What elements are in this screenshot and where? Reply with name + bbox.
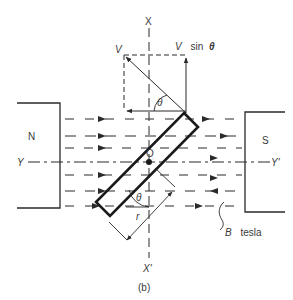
field-strength-label: B tesla — [219, 202, 262, 238]
v-sin-theta-sin: sin — [190, 41, 203, 52]
coil-in-magnetic-field-diagram: N S Y Y' X X' — [0, 0, 293, 300]
velocity-diagram: θ V V sin θ — [115, 41, 215, 113]
v-sin-theta-label: V sin θ — [175, 41, 215, 52]
figure-caption: (b) — [138, 282, 150, 293]
south-label: S — [262, 135, 269, 146]
coil-center-point — [146, 159, 152, 165]
center-label-O: O — [146, 148, 154, 159]
tesla-unit: tesla — [240, 227, 262, 238]
axis-label-Y-prime: Y' — [271, 157, 281, 168]
b-tesla-label: B tesla — [225, 227, 262, 238]
b-symbol: B — [225, 227, 232, 238]
axis-label-Y: Y — [17, 157, 25, 168]
axis-label-X-prime: X' — [142, 263, 153, 274]
v-sin-theta-V: V — [175, 41, 183, 52]
velocity-label-V: V — [115, 44, 123, 55]
v-sin-theta-theta: θ — [209, 41, 215, 52]
north-pole-magnet: N — [17, 103, 60, 208]
upper-theta-label: θ — [157, 97, 163, 108]
rotating-coil: O — [96, 113, 198, 216]
axis-label-X: X — [145, 16, 152, 27]
lower-theta-label: θ — [136, 192, 142, 203]
radius-label-r: r — [136, 211, 140, 222]
north-label: N — [28, 131, 35, 142]
lower-theta-angle: θ — [126, 190, 149, 207]
